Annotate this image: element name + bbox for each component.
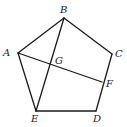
- label-a: A: [2, 47, 10, 58]
- segment-ea: [18, 53, 36, 111]
- label-d: D: [92, 113, 101, 124]
- pentagon-diagram: A B C D E F G: [0, 0, 127, 127]
- label-g: G: [55, 55, 63, 66]
- label-c: C: [115, 48, 123, 59]
- label-e: E: [30, 113, 39, 124]
- label-b: B: [59, 4, 67, 15]
- segment-ab: [18, 18, 64, 53]
- segments: [18, 18, 112, 111]
- segment-bc: [64, 18, 112, 54]
- label-f: F: [105, 78, 114, 89]
